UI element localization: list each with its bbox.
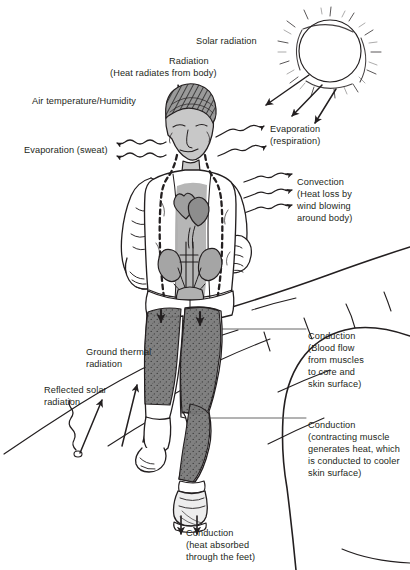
label-convection: Convection (297, 177, 344, 188)
label-conduction-muscle: Conduction (308, 420, 355, 431)
label-evaporation-respiration: Evaporation (270, 124, 320, 135)
label-conduction-blood-l5: skin surface) (308, 379, 361, 390)
label-conduction-muscle-l4: is conducted to cooler (308, 456, 400, 467)
label-reflected-solar-l2: radiation (44, 397, 80, 408)
label-reflected-solar: Reflected solar (44, 385, 107, 396)
label-ground-thermal-l2: radiation (86, 359, 122, 370)
label-evaporation-respiration-sub: (respiration) (270, 136, 320, 147)
label-conduction-feet-l3: through the feet) (186, 552, 255, 563)
label-convection-l3: wind blowing (297, 201, 351, 212)
evaporation-respiration-arrows (216, 125, 266, 156)
label-conduction-feet-l2: (heat absorbed (186, 540, 249, 551)
label-radiation: Radiation (169, 56, 209, 67)
reflected-solar-wave (69, 400, 82, 457)
label-conduction-blood-l4: to core and (308, 367, 355, 378)
evaporation-sweat-arrows (117, 140, 166, 157)
label-conduction-muscle-l3: generates heat, which (308, 444, 400, 455)
label-conduction-blood-l3: from muscles (308, 355, 364, 366)
runner (121, 84, 251, 533)
label-conduction-blood-l2: (Blood flow (308, 343, 355, 354)
label-convection-l4: around body) (297, 213, 352, 224)
legs (136, 298, 233, 493)
label-solar-radiation: Solar radiation (196, 36, 257, 47)
label-conduction-feet: Conduction (186, 528, 233, 539)
diagram-artwork (0, 0, 410, 570)
convection-arrows (244, 173, 292, 213)
head (166, 84, 216, 175)
label-conduction-muscle-l2: (contracting muscle (308, 432, 390, 443)
label-radiation-sub: (Heat radiates from body) (110, 68, 217, 79)
label-ground-thermal: Ground thermal (86, 347, 151, 358)
shoe (174, 481, 208, 533)
reflected-solar-radiation-arrows (80, 400, 102, 453)
thermoregulation-diagram: Solar radiationRadiation(Heat radiates f… (0, 0, 410, 570)
label-convection-l2: (Heat loss by (297, 189, 352, 200)
leader-lines (210, 329, 306, 418)
sun (278, 7, 381, 98)
label-air-temperature: Air temperature/Humidity (32, 96, 136, 107)
label-evaporation-sweat: Evaporation (sweat) (24, 145, 108, 156)
label-conduction-blood: Conduction (308, 331, 355, 342)
label-conduction-muscle-l5: skin surface) (308, 468, 361, 479)
